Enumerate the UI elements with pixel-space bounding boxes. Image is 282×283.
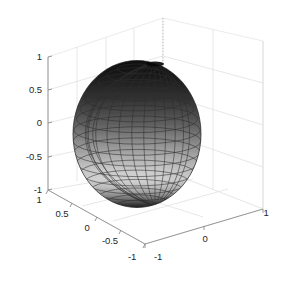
sphere-surface-plot	[0, 0, 282, 283]
matlab-figure-window: 1 0.5 0 -0.5 -1 1 0.5 0 -0.5 -1 -1 0 1	[0, 0, 282, 283]
z-tick-label-0_5: 0.5	[29, 85, 42, 95]
x-tick-label-0: 0	[202, 234, 207, 244]
z-tick-label-1: 1	[37, 52, 42, 62]
y-tick-label-0_5: 0.5	[56, 209, 69, 219]
x-tick-label-neg1: -1	[154, 252, 162, 262]
z-tick-label-0: 0	[37, 118, 42, 128]
y-tick-label-neg1: -1	[128, 252, 136, 262]
y-tick-label-1: 1	[36, 195, 41, 205]
x-tick-label-1: 1	[263, 208, 268, 218]
z-tick-label-neg0_5: -0.5	[26, 152, 42, 162]
y-tick-label-0: 0	[84, 223, 89, 233]
y-tick-label-neg0_5: -0.5	[102, 236, 118, 246]
